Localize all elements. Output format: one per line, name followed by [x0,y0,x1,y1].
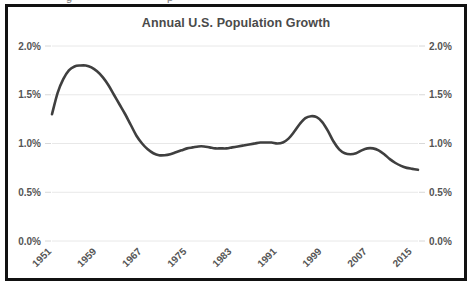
data-series-line [52,65,418,170]
x-axis-label: 2007 [345,245,369,269]
series-group [52,65,418,170]
y-axis-right-labels: 2.0%1.5%1.0%0.5%0.0% [429,41,452,247]
x-axis-label: 1967 [120,245,144,269]
y-axis-label-left: 0.5% [18,187,41,198]
y-axis-label-left: 1.5% [18,89,41,100]
x-axis-label: 2015 [390,245,414,269]
chart-container: Annual U.S. Population Growth 2.0%1.5%1.… [8,7,464,278]
y-axis-label-right: 0.0% [429,236,452,247]
chart-border-frame: Annual U.S. Population Growth 2.0%1.5%1.… [5,4,467,281]
line-chart-plot: 2.0%1.5%1.0%0.5%0.0% 2.0%1.5%1.0%0.5%0.0… [8,7,464,278]
clipped-glyph: p [167,0,173,3]
clipped-glyph: g [66,0,72,3]
x-axis-labels: 195119591967197519831991199920072015 [30,245,414,269]
y-axis-label-right: 0.5% [429,187,452,198]
x-axis-label: 1999 [300,245,324,269]
x-axis-label: 1975 [165,245,189,269]
y-axis-label-right: 1.5% [429,89,452,100]
y-axis-label-left: 0.0% [18,236,41,247]
x-axis-label: 1991 [255,245,279,269]
x-axis-label: 1959 [75,245,99,269]
x-axis-label: 1951 [30,245,54,269]
y-axis-label-left: 2.0% [18,41,41,52]
x-axis-label: 1983 [210,245,234,269]
y-axis-label-right: 2.0% [429,41,452,52]
y-axis-label-left: 1.0% [18,138,41,149]
y-axis-label-right: 1.0% [429,138,452,149]
y-axis-left-labels: 2.0%1.5%1.0%0.5%0.0% [18,41,41,247]
